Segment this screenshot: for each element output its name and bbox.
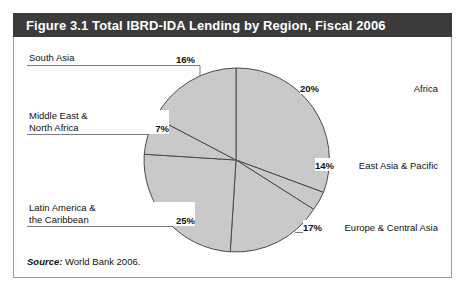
callout-south-asia-label: South Asia bbox=[29, 52, 195, 64]
callout-east-asia: 14% East Asia & Pacific bbox=[315, 158, 438, 171]
source-text: World Bank 2006. bbox=[65, 256, 140, 267]
figure-title-bar: Figure 3.1 Total IBRD-IDA Lending by Reg… bbox=[13, 13, 452, 37]
callout-latin-america-label-line2: the Caribbean bbox=[29, 214, 195, 226]
callout-latin-america-label-line1: Latin America & bbox=[29, 202, 195, 214]
callout-latin-america-percent: 25% bbox=[176, 215, 195, 227]
callout-middle-east-label-line1: Middle East & bbox=[29, 110, 169, 122]
callout-east-asia-label: East Asia & Pacific bbox=[359, 160, 438, 172]
source-label: Source: bbox=[27, 256, 62, 267]
callout-latin-america: Latin America & the Caribbean 25% bbox=[29, 202, 195, 226]
figure-container: Figure 3.1 Total IBRD-IDA Lending by Reg… bbox=[0, 0, 468, 291]
callout-europe-label: Europe & Central Asia bbox=[345, 222, 438, 234]
source-note: Source: World Bank 2006. bbox=[27, 256, 140, 267]
callout-africa-label: Africa bbox=[414, 83, 438, 95]
callout-europe-percent: 17% bbox=[303, 222, 322, 234]
callout-europe: 17% Europe & Central Asia bbox=[303, 220, 438, 233]
pie-chart-svg bbox=[14, 37, 451, 277]
callout-middle-east: Middle East & North Africa 7% bbox=[29, 110, 169, 134]
pie-chart-area bbox=[14, 37, 451, 277]
callout-east-asia-percent: 14% bbox=[315, 160, 334, 172]
figure-title: Figure 3.1 Total IBRD-IDA Lending by Reg… bbox=[13, 18, 386, 33]
callout-south-asia-percent: 16% bbox=[176, 54, 195, 66]
callout-middle-east-label-line2: North Africa bbox=[29, 122, 169, 134]
callout-south-asia: South Asia 16% bbox=[29, 52, 195, 65]
leader-line-south-asia bbox=[27, 66, 200, 89]
callout-africa: 20% Africa bbox=[300, 81, 438, 94]
callout-africa-percent: 20% bbox=[300, 83, 319, 95]
callout-middle-east-percent: 7% bbox=[155, 123, 169, 135]
